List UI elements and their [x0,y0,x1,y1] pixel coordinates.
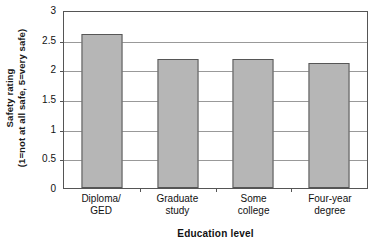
bar[interactable] [81,34,122,188]
y-axis-tick-labels: 32.521.510.50 [28,0,60,200]
bar-cell [140,12,216,188]
x-axis-tick-labels: Diploma/GEDGraduatestudySomecollegeFour-… [63,193,368,223]
y-tick-label: 0 [50,184,56,194]
bar-cell [216,12,292,188]
x-axis-title: Education level [63,228,368,239]
bar[interactable] [157,59,198,188]
y-axis-title-line2: (1=not at all safe, 5=very safe) [16,29,28,167]
x-tick-label-line: Graduate [139,193,215,205]
x-tick-label-line: GED [63,205,139,217]
x-tick-mark [216,188,217,192]
bar-cell [64,12,140,188]
x-tick-mark [140,188,141,192]
x-tick-mark [291,188,292,192]
y-tick-label: 1.5 [42,95,56,105]
x-tick-label: Somecollege [216,193,292,223]
bar[interactable] [233,59,274,188]
x-tick-label-line: Diploma/ [63,193,139,205]
bar-chart: Safety rating (1=not at all safe, 5=very… [0,0,386,247]
y-tick-label: 3 [50,6,56,16]
y-axis-title-line1: Safety rating [4,69,16,128]
x-tick-label-line: Some [216,193,292,205]
bar-cell [291,12,367,188]
x-tick-label-line: study [139,205,215,217]
x-tick-label-line: Four-year [292,193,368,205]
x-tick-label: Diploma/GED [63,193,139,223]
bar[interactable] [309,63,350,188]
x-tick-label-line: degree [292,205,368,217]
x-tick-label: Four-yeardegree [292,193,368,223]
y-tick-label: 1 [50,125,56,135]
bar-series [64,12,367,188]
x-tick-label: Graduatestudy [139,193,215,223]
y-tick-label: 2 [50,65,56,75]
y-tick-label: 2.5 [42,36,56,46]
y-tick-label: 0.5 [42,154,56,164]
plot-area [63,11,368,189]
x-tick-label-line: college [216,205,292,217]
